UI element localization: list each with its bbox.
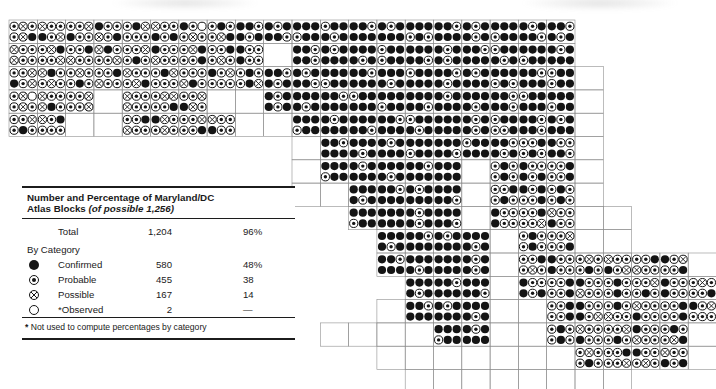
total-pct: 96% xyxy=(243,226,262,237)
category-label: *Observed xyxy=(58,304,103,315)
category-row-confirmed: Confirmed 580 48% xyxy=(22,257,295,272)
by-category-label: By Category xyxy=(27,244,80,255)
legend-bottom-rule xyxy=(22,338,295,340)
category-pct: 38 xyxy=(243,274,254,285)
legend-title: Number and Percentage of Maryland/DC Atl… xyxy=(22,188,295,218)
total-row: Total 1,204 96% xyxy=(22,224,295,239)
legend-title-italic: (of possible 1,256) xyxy=(89,203,174,214)
legend-title-line1: Number and Percentage of Maryland/DC xyxy=(27,192,295,203)
total-value: 1,204 xyxy=(108,226,172,237)
category-pct: 48% xyxy=(243,259,262,270)
observed-symbol xyxy=(29,305,39,315)
category-value: 580 xyxy=(108,259,172,270)
category-row-possible: Possible 167 14 xyxy=(22,287,295,302)
category-label: Confirmed xyxy=(58,259,102,270)
category-label: Possible xyxy=(58,289,94,300)
category-value: 167 xyxy=(108,289,172,300)
category-row-observed: *Observed 2 — xyxy=(22,302,295,317)
legend-title-rule xyxy=(22,218,295,219)
legend-box: Number and Percentage of Maryland/DC Atl… xyxy=(22,186,295,340)
category-value: 2 xyxy=(108,304,172,315)
probable-symbol xyxy=(29,275,39,285)
category-pct: — xyxy=(243,304,253,315)
category-pct: 14 xyxy=(243,289,254,300)
category-row-probable: Probable 455 38 xyxy=(22,272,295,287)
by-category-row: By Category xyxy=(22,242,295,257)
footnote-text: Not used to compute percentages by categ… xyxy=(28,322,206,332)
atlas-figure: Number and Percentage of Maryland/DC Atl… xyxy=(0,0,716,389)
confirmed-symbol xyxy=(29,260,39,270)
possible-symbol xyxy=(29,290,39,300)
legend-footnote: * Not used to compute percentages by cat… xyxy=(22,318,295,338)
total-label: Total xyxy=(58,226,78,237)
legend-title-line2: Atlas Blocks (of possible 1,256) xyxy=(27,203,295,214)
category-value: 455 xyxy=(108,274,172,285)
category-label: Probable xyxy=(58,274,96,285)
